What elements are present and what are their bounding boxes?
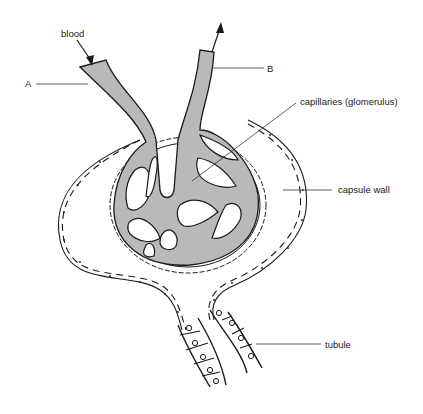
blood-out-arrow <box>212 22 224 52</box>
label-capillaries: capillaries (glomerulus) <box>300 96 398 107</box>
tubule <box>178 310 262 387</box>
label-tubule: tubule <box>325 339 351 350</box>
label-a: A <box>25 78 32 89</box>
nephron-diagram: blood A B capillaries (glomerulus) capsu… <box>0 0 423 414</box>
blood-in-arrow <box>77 40 94 66</box>
label-capsule-wall: capsule wall <box>338 184 390 195</box>
glomerulus-capillaries <box>80 50 258 265</box>
label-blood: blood <box>61 28 84 39</box>
label-b: B <box>267 63 273 74</box>
